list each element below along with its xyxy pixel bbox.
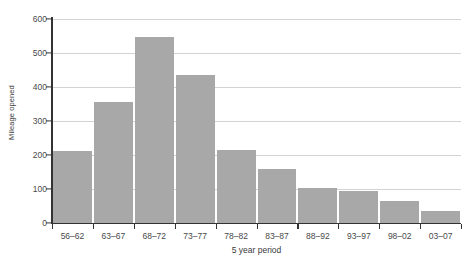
y-axis-tick-label: 100: [33, 184, 47, 194]
y-axis-tick-label: 200: [33, 150, 47, 160]
x-axis-tick-label: 93–97: [338, 231, 379, 245]
y-axis-title: Mileage opened: [0, 0, 22, 224]
bar-slot: [93, 19, 134, 223]
y-axis-title-text: Mileage opened: [7, 85, 16, 140]
x-axis-tick-labels: 56–6263–6768–7273–7778–8283–8788–9293–97…: [52, 231, 461, 245]
bar: [380, 201, 419, 223]
x-axis-tick-label: 56–62: [52, 231, 93, 245]
bar-slot: [134, 19, 175, 223]
bar: [339, 191, 378, 223]
y-axis-tick-label: 300: [33, 116, 47, 126]
bar-slot: [297, 19, 338, 223]
x-axis-tick-label: 88–92: [297, 231, 338, 245]
x-axis-tick-mark: [216, 224, 217, 229]
x-axis-tick-mark: [134, 224, 135, 229]
bar-series: [52, 19, 461, 223]
x-axis-tick-mark: [338, 224, 339, 229]
x-axis-tick-label: 78–82: [216, 231, 257, 245]
plot-area: [52, 19, 461, 223]
y-axis-tick-label: 500: [33, 48, 47, 58]
x-axis-tick-mark: [461, 224, 462, 229]
bar: [176, 75, 215, 223]
bar: [135, 37, 174, 223]
bar: [53, 151, 92, 223]
x-axis-tick-mark: [52, 224, 53, 229]
x-axis-tick-mark: [257, 224, 258, 229]
x-axis-title: 5 year period: [52, 245, 461, 255]
y-axis-tick-mark: [46, 52, 52, 53]
bar-slot: [420, 19, 461, 223]
x-axis-tick-mark: [420, 224, 421, 229]
bar-slot: [257, 19, 298, 223]
bar-slot: [338, 19, 379, 223]
bar-slot: [216, 19, 257, 223]
x-axis-tick-label: 68–72: [134, 231, 175, 245]
bar-chart-figure: Mileage opened 0100200300400500600 56–62…: [0, 0, 466, 268]
x-axis-tick-mark: [297, 224, 298, 229]
y-axis-tick-label: 400: [33, 82, 47, 92]
x-axis-tick-label: 98–02: [379, 231, 420, 245]
bar: [298, 188, 337, 223]
x-axis-tick-mark: [175, 224, 176, 229]
x-axis-tick-label: 63–67: [93, 231, 134, 245]
x-axis-tick-label: 83–87: [257, 231, 298, 245]
bar-slot: [379, 19, 420, 223]
y-axis-tick-label: 600: [33, 14, 47, 24]
y-axis-tick-mark: [46, 120, 52, 121]
bar-slot: [175, 19, 216, 223]
x-axis-tick-label: 03–07: [420, 231, 461, 245]
y-axis-tick-mark: [46, 86, 52, 87]
y-axis-tick-mark: [46, 188, 52, 189]
bar-slot: [52, 19, 93, 223]
bar: [94, 102, 133, 223]
x-axis-tick-label: 73–77: [175, 231, 216, 245]
x-axis-tick-mark: [379, 224, 380, 229]
bar: [217, 150, 256, 223]
y-axis-tick-mark: [46, 154, 52, 155]
y-axis-tick-labels: 0100200300400500600: [22, 0, 50, 268]
y-axis-tick-mark: [46, 18, 52, 19]
x-axis-tick-mark: [93, 224, 94, 229]
bar: [421, 211, 460, 223]
bar: [258, 169, 297, 223]
